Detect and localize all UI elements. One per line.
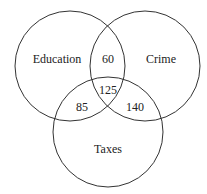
value-all-three: 125 [99,83,117,97]
venn-diagram: Education Crime Taxes 60 125 85 140 [0,0,207,194]
label-crime: Crime [146,52,176,66]
label-education: Education [33,52,82,66]
value-education-crime: 60 [102,52,114,66]
value-education-taxes: 85 [76,100,88,114]
circle-education [15,11,125,121]
circle-crime [90,11,200,121]
label-taxes: Taxes [94,142,122,156]
value-crime-taxes: 140 [126,100,144,114]
